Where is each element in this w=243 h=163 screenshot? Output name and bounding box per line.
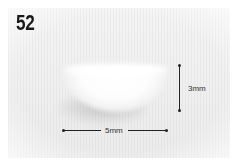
width-right-endpoint — [165, 129, 168, 132]
width-label: 5mm — [105, 126, 123, 135]
height-dimension-line — [179, 65, 180, 110]
white-object-top — [64, 64, 168, 76]
photo-figure: 52 3mm 5mm — [0, 0, 243, 163]
height-label: 3mm — [188, 84, 206, 93]
figure-number: 52 — [16, 12, 34, 34]
width-dimension-line-left — [63, 130, 101, 131]
height-bottom-endpoint — [178, 109, 181, 112]
width-dimension-line-right — [128, 130, 166, 131]
